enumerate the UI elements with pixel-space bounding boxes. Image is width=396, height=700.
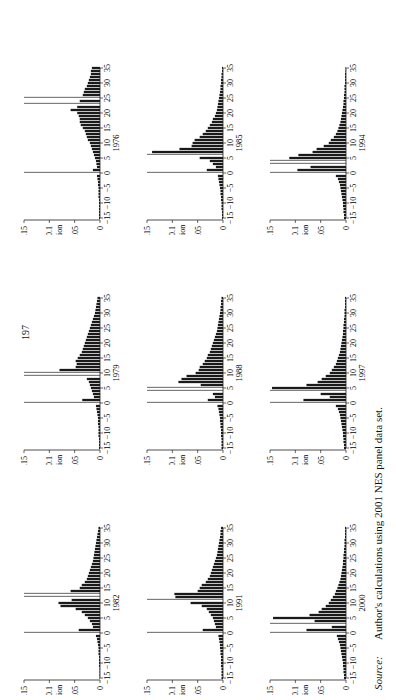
year-label: 1994 [357,134,367,152]
svg-text:30: 30 [349,79,358,87]
svg-text:25: 25 [349,324,358,332]
svg-text:30: 30 [103,309,112,317]
bar [191,602,223,604]
svg-text:20: 20 [349,339,358,347]
svg-text:0: 0 [349,171,358,175]
bar [88,617,100,619]
svg-text:0.15: 0.15 [266,456,275,465]
year-label: 1976 [111,135,121,152]
bar [97,638,100,640]
bar [313,151,346,153]
svg-text:−10: −10 [226,197,235,210]
bar [342,109,346,111]
bar [202,605,223,607]
bar [297,169,346,171]
bar [213,118,223,120]
bar [94,396,100,398]
svg-text:0: 0 [349,631,358,635]
svg-text:−5: −5 [349,184,358,193]
bar [342,656,346,658]
bar [76,608,100,610]
svg-text:25: 25 [226,554,235,562]
bar [343,435,346,437]
svg-text:30: 30 [103,79,112,87]
bar [72,599,100,601]
bar [205,360,223,362]
bar [342,196,346,198]
bar [329,142,346,144]
bar [324,145,346,147]
bar [147,154,223,155]
bar [192,145,223,147]
bar [212,569,223,571]
svg-text:0.1: 0.1 [45,686,54,695]
bar [87,136,100,138]
bar [343,205,346,207]
svg-text:0.05: 0.05 [194,456,203,465]
bar [24,402,100,403]
bar [91,324,100,326]
svg-text:Fraction: Fraction [178,225,187,235]
svg-text:35: 35 [226,64,235,72]
bar [24,97,100,98]
bar [96,408,100,410]
bar [147,599,223,600]
bar [86,133,100,135]
bar [303,399,346,401]
bar [341,345,346,347]
svg-text:35: 35 [226,294,235,302]
bar [207,608,223,610]
svg-text:5: 5 [103,156,112,160]
bar [270,632,346,633]
bar [58,602,100,604]
bar [216,112,223,114]
bar [339,641,346,643]
svg-text:35: 35 [226,524,235,532]
bar [317,148,346,150]
bar [213,566,223,568]
bar [342,659,346,661]
svg-text:−5: −5 [226,414,235,423]
svg-text:−5: −5 [103,184,112,193]
bar [85,88,100,90]
year-label: 2000 [357,595,367,612]
bar [91,566,100,568]
page-number: 197 [20,325,31,340]
bar [338,127,346,129]
bar [340,644,346,646]
bar [216,166,223,168]
svg-text:35: 35 [103,64,112,72]
svg-text:0.15: 0.15 [143,456,152,465]
svg-text:0: 0 [103,631,112,635]
bar [219,97,223,99]
bar [220,91,223,93]
svg-text:20: 20 [349,109,358,117]
bar [341,423,346,425]
bar [71,109,100,111]
year-label: 1997 [357,365,367,382]
svg-text:−15: −15 [349,672,358,685]
bar [340,121,346,123]
bar [270,623,346,624]
bar [339,581,346,583]
year-label: 1985 [234,135,244,152]
svg-text:20: 20 [226,339,235,347]
bar [340,414,346,416]
bar [87,578,100,580]
bar [83,348,100,350]
bar [341,650,346,652]
bar [338,638,346,640]
bar [220,417,223,419]
bar [340,647,346,649]
bar [91,70,100,72]
svg-text:Fraction: Fraction [55,685,64,695]
bar [306,629,346,631]
bar [331,139,346,141]
bar [90,569,100,571]
bar [92,67,100,69]
bar [210,575,223,577]
svg-text:−10: −10 [226,427,235,440]
bar [147,390,223,391]
svg-text:0.1: 0.1 [291,226,300,235]
bar [217,551,223,553]
